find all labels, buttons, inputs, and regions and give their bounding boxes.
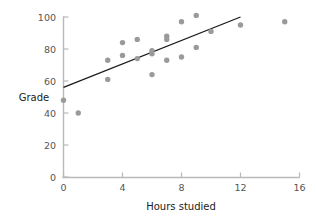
data-point (179, 54, 184, 59)
x-axis-title: Hours studied (146, 201, 216, 212)
data-point (282, 19, 287, 24)
y-tick-label-60: 60 (44, 76, 56, 87)
data-point (194, 45, 199, 50)
data-point (179, 19, 184, 24)
x-tick-label-12: 12 (234, 182, 246, 193)
x-tick-marks (64, 173, 300, 178)
data-point (76, 110, 81, 115)
plot-canvas: 100 80 60 40 20 0 0 4 8 12 16 Grade Hour… (0, 0, 317, 219)
data-point (135, 56, 140, 61)
data-point (61, 98, 66, 103)
data-point (120, 53, 125, 58)
x-tick-label-0: 0 (60, 182, 66, 193)
data-point (120, 40, 125, 45)
x-tick-label-8: 8 (178, 182, 184, 193)
data-point (105, 58, 110, 63)
data-point (194, 13, 199, 18)
y-tick-label-100: 100 (38, 12, 56, 23)
data-point (135, 37, 140, 42)
data-point (164, 37, 169, 42)
data-point (149, 51, 154, 56)
data-point (105, 77, 110, 82)
data-point (149, 72, 154, 77)
data-point (164, 58, 169, 63)
y-axis-title: Grade (19, 92, 50, 103)
data-point (208, 29, 213, 34)
scatter-chart: 100 80 60 40 20 0 0 4 8 12 16 Grade Hour… (0, 0, 317, 219)
y-tick-label-80: 80 (44, 44, 56, 55)
y-tick-label-40: 40 (44, 108, 56, 119)
data-point (238, 22, 243, 27)
y-tick-label-20: 20 (44, 140, 56, 151)
x-tick-label-16: 16 (293, 182, 305, 193)
x-tick-label-4: 4 (119, 182, 125, 193)
y-tick-marks (64, 17, 69, 177)
y-tick-label-0: 0 (50, 172, 56, 183)
data-points-layer (61, 13, 288, 116)
